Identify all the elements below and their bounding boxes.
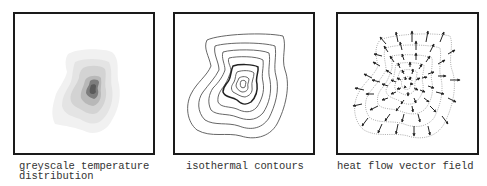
contour-2 (199, 43, 278, 128)
contour-6 (231, 71, 254, 97)
heat-flow-vector-field-image (338, 14, 477, 153)
greyscale-caption-line2: distribution (19, 171, 93, 181)
flow-guide-lines (355, 34, 455, 138)
isothermal-contours-image (175, 14, 313, 153)
contour-8 (240, 80, 246, 87)
vector-field-caption: heat flow vector field (337, 161, 473, 171)
heat-flow-vector-field-panel (336, 12, 479, 155)
contour-3 (209, 50, 271, 120)
contour-1 (188, 34, 288, 138)
greyscale-temperature-panel (13, 12, 155, 155)
contour-7 (236, 77, 249, 92)
isothermal-caption: isothermal contours (186, 161, 304, 171)
heat-flow-arrows (353, 31, 460, 136)
greyscale-temperature-image (15, 14, 153, 153)
isothermal-contours-panel (173, 12, 315, 155)
